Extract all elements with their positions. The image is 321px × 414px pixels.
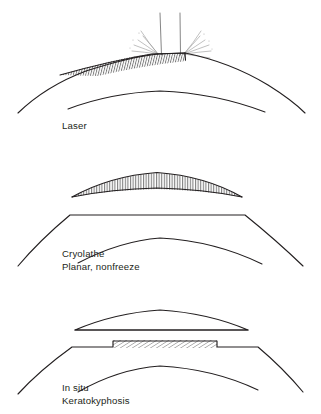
surgery-technique-figure: Laser Cryolathe Planar, nonfreeze In si (0, 0, 321, 414)
panel-cryolathe-label-2: Planar, nonfreeze (62, 261, 140, 272)
panel-laser-label: Laser (62, 120, 87, 131)
panel-insitu-label-1: In situ (62, 382, 89, 393)
panel-cryolathe-label-1: Cryolathe (62, 248, 104, 259)
panel-insitu-label-2: Keratokyphosis (62, 395, 130, 406)
laser-ablation-edge (185, 53, 186, 60)
